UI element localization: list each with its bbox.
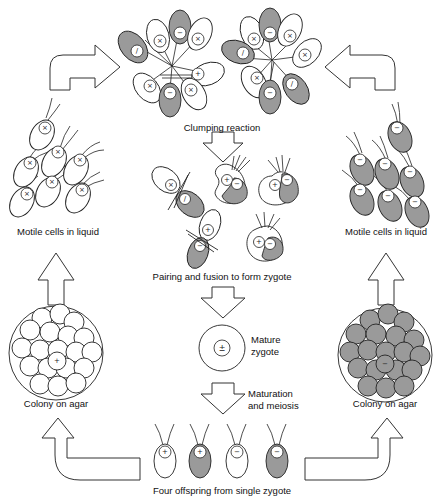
svg-text:×: ×: [24, 190, 30, 198]
down-arrow-1: [203, 132, 243, 162]
svg-text:−: −: [382, 360, 388, 368]
svg-text:+: +: [197, 448, 203, 456]
svg-text:−: −: [234, 180, 240, 188]
svg-text:−: −: [357, 186, 363, 194]
svg-text:×: ×: [188, 86, 194, 94]
mature-zygote: ±: [199, 325, 245, 371]
svg-text:−: −: [197, 242, 203, 250]
svg-text:+: +: [195, 70, 201, 78]
label-mature-line2: zygote: [251, 346, 279, 357]
svg-text:×: ×: [157, 37, 163, 45]
curved-arrow-bottom-left: [42, 418, 140, 480]
svg-text:−: −: [267, 29, 273, 37]
svg-text:×: ×: [42, 124, 48, 132]
label-clumping-reaction: Clumping reaction: [184, 122, 261, 133]
label-mature-line1: Mature: [251, 334, 281, 345]
svg-text:+: +: [205, 226, 211, 234]
svg-text:+: +: [162, 448, 168, 456]
svg-text:−: −: [385, 192, 391, 200]
label-motile-right: Motile cells in liquid: [345, 226, 427, 237]
four-offspring: [155, 424, 286, 445]
label-colony-left: Colony on agar: [24, 398, 88, 409]
svg-text:+: +: [224, 176, 230, 184]
label-four-offspring: Four offspring from single zygote: [153, 485, 291, 496]
label-colony-right: Colony on agar: [353, 398, 417, 409]
motile-cells-left: × × × × × × ×: [4, 98, 104, 221]
svg-text:−: −: [284, 176, 290, 184]
svg-text:−: −: [357, 156, 363, 164]
down-arrow-3: [201, 383, 245, 414]
svg-text:−: −: [382, 160, 388, 168]
svg-text:−: −: [267, 240, 273, 248]
svg-text:−: −: [167, 89, 173, 97]
svg-text:−: −: [177, 29, 183, 37]
svg-text:×: ×: [55, 148, 61, 156]
curved-arrow-top-right: [325, 45, 395, 90]
svg-text:×: ×: [77, 156, 83, 164]
svg-text:×: ×: [49, 178, 55, 186]
svg-text:+: +: [272, 181, 278, 189]
colony-right: −: [338, 304, 432, 402]
label-maturation-line1: Maturation: [248, 388, 293, 399]
svg-text:×: ×: [195, 35, 201, 43]
svg-text:×: ×: [168, 181, 174, 189]
life-cycle-diagram: / × − × + × − × × − × / × ×: [0, 0, 445, 497]
svg-text:×: ×: [302, 51, 308, 59]
svg-text:×: ×: [251, 35, 257, 43]
label-maturation-line2: and meiosis: [248, 400, 299, 411]
motile-cells-right: − − − − − − −: [342, 102, 434, 231]
svg-text:−: −: [267, 89, 273, 97]
up-arrow-left: [38, 253, 74, 305]
svg-text:±: ±: [219, 344, 226, 353]
colony-left: +: [9, 304, 103, 400]
clump-right: × − × / × × − /: [218, 8, 327, 114]
up-arrow-right: [368, 253, 404, 305]
svg-text:×: ×: [287, 32, 293, 40]
svg-text:×: ×: [79, 186, 85, 194]
svg-text:×: ×: [147, 82, 153, 90]
pairing-cells: × / + − + − + − + −: [147, 155, 299, 271]
down-arrow-2: [201, 287, 245, 318]
label-pairing-fusion: Pairing and fusion to form zygote: [153, 271, 292, 282]
svg-text:−: −: [274, 448, 280, 456]
svg-text:+: +: [256, 238, 262, 246]
curved-arrow-bottom-right: [305, 418, 403, 480]
svg-text:−: −: [234, 448, 240, 456]
svg-text:−: −: [394, 124, 400, 132]
svg-text:−: −: [407, 168, 413, 176]
svg-text:×: ×: [254, 74, 260, 82]
svg-text:−: −: [412, 198, 418, 206]
label-motile-left: Motile cells in liquid: [17, 226, 99, 237]
svg-text:+: +: [54, 357, 60, 365]
svg-text:×: ×: [27, 159, 33, 167]
curved-arrow-top-left: [50, 45, 120, 90]
clump-left: / × − × + × − ×: [112, 10, 227, 117]
